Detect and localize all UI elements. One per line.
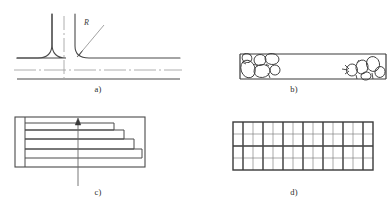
aggregate-cluster-left bbox=[239, 52, 281, 80]
serpentine-path bbox=[25, 117, 142, 167]
aggregate-cluster-right bbox=[342, 55, 386, 81]
panel-b: b) bbox=[196, 0, 392, 104]
radius-label: R bbox=[84, 18, 89, 27]
panel-b-caption: b) bbox=[196, 84, 392, 94]
panel-d-caption: d) bbox=[196, 187, 392, 197]
left-fillet-profile bbox=[17, 14, 66, 58]
panel-d: d) bbox=[196, 104, 392, 207]
panel-a-caption: a) bbox=[0, 84, 196, 94]
direction-arrowhead bbox=[75, 118, 81, 125]
left-fillet-curve bbox=[17, 14, 52, 58]
panel-c: c) bbox=[0, 104, 196, 207]
grid-thick-lines bbox=[233, 122, 373, 170]
panel-a: R a) bbox=[0, 0, 196, 104]
panel-c-caption: c) bbox=[0, 187, 196, 197]
right-fillet-profile bbox=[75, 14, 180, 58]
technical-figure: R a) bbox=[0, 0, 392, 207]
